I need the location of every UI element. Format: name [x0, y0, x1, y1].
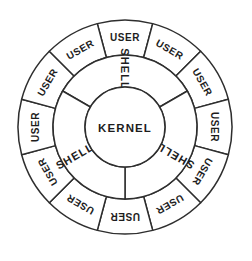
user-ring-segment-label: USER: [110, 32, 140, 43]
user-ring-segment-label: USER: [30, 112, 41, 142]
user-ring-segment-label: USER: [209, 112, 220, 142]
shell-ring-segment-label: SHELL: [119, 48, 131, 90]
unix-architecture-diagram-container: USERUSERUSERUSERUSERUSERUSERUSERUSERUSER…: [0, 0, 252, 261]
user-ring-segment-label: USER: [110, 211, 140, 222]
kernel-core: KERNEL: [85, 87, 165, 167]
kernel-label: KERNEL: [98, 122, 152, 134]
unix-architecture-diagram: USERUSERUSERUSERUSERUSERUSERUSERUSERUSER…: [0, 0, 252, 261]
